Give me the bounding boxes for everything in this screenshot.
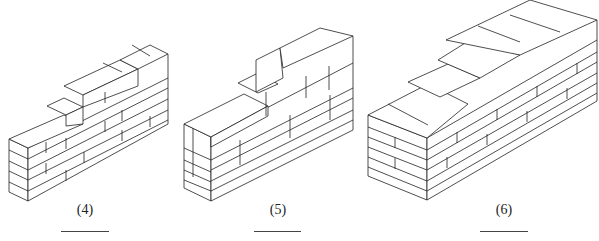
- answer-blank-4[interactable]: [61, 231, 109, 232]
- figure-label-4: (4): [77, 202, 93, 218]
- answer-blank-6[interactable]: [480, 231, 528, 232]
- figure-label-6: (6): [496, 202, 512, 218]
- wall-figure-6: [368, 0, 597, 200]
- wall-figure-5: [184, 28, 353, 201]
- wall-figure-4: [9, 45, 168, 201]
- figure-label-5: (5): [270, 202, 286, 218]
- answer-blank-5[interactable]: [254, 231, 301, 232]
